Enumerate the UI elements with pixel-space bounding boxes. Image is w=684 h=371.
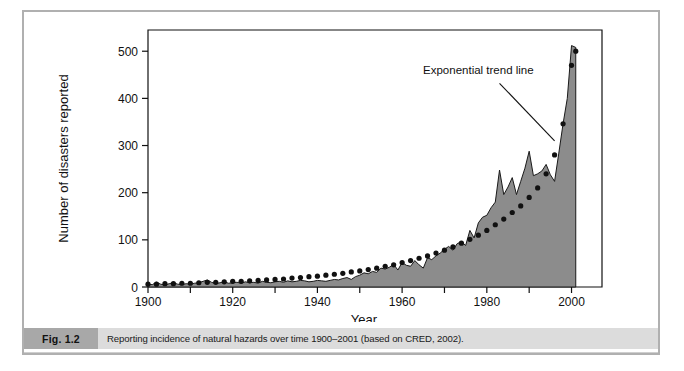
trend-dot	[400, 260, 405, 265]
trend-dot	[484, 228, 489, 233]
x-tick-label: 1960	[389, 295, 416, 309]
trend-dot	[256, 278, 261, 283]
trend-dot	[179, 281, 184, 286]
trend-dot	[239, 279, 244, 284]
x-axis-title: Year	[351, 312, 378, 322]
trend-dot	[196, 280, 201, 285]
trend-dot	[408, 258, 413, 263]
trend-dot	[518, 203, 523, 208]
trend-dot	[247, 278, 252, 283]
y-tick-label: 0	[131, 281, 138, 295]
trend-dot	[349, 269, 354, 274]
x-axis: 190019201940196019802000	[135, 287, 586, 309]
trend-dot	[154, 282, 159, 287]
figure-number-label: Fig. 1.2	[24, 328, 98, 349]
figure-page: 0100200300400500Number of disasters repo…	[0, 0, 684, 371]
annotation-leader-line	[500, 83, 555, 141]
trend-dot	[222, 279, 227, 284]
trend-dot	[289, 275, 294, 280]
trend-dot	[340, 271, 345, 276]
trend-dot	[205, 280, 210, 285]
trend-dot	[213, 280, 218, 285]
trend-dot	[145, 282, 150, 287]
trend-dot	[573, 49, 578, 54]
trend-dot	[459, 241, 464, 246]
x-tick-label: 1900	[135, 295, 162, 309]
trend-dot	[544, 171, 549, 176]
trend-dot	[315, 274, 320, 279]
trend-dot	[493, 222, 498, 227]
trend-dot	[374, 266, 379, 271]
trend-dot	[332, 272, 337, 277]
chart-annotation: Exponential trend line	[423, 64, 555, 141]
trend-dot	[171, 281, 176, 286]
trend-dot	[366, 267, 371, 272]
disasters-over-time-chart: 0100200300400500Number of disasters repo…	[24, 12, 658, 322]
trend-dot	[357, 268, 362, 273]
trend-dot	[467, 237, 472, 242]
area-series-disasters	[148, 46, 576, 287]
x-tick-label: 1980	[473, 295, 500, 309]
trend-dot	[230, 279, 235, 284]
figure-area: 0100200300400500Number of disasters repo…	[24, 12, 658, 322]
trend-dot	[527, 195, 532, 200]
caption-underline	[24, 352, 658, 353]
trend-dot	[383, 264, 388, 269]
trend-dot	[162, 281, 167, 286]
trend-dot	[391, 262, 396, 267]
trend-dot	[552, 152, 557, 157]
x-tick-label: 1940	[304, 295, 331, 309]
x-tick-label: 2000	[558, 295, 585, 309]
trend-dot	[425, 253, 430, 258]
y-axis: 0100200300400500	[118, 45, 148, 295]
trend-dot	[281, 276, 286, 281]
trend-dot	[188, 281, 193, 286]
annotation-label: Exponential trend line	[423, 64, 534, 76]
trend-dot	[306, 274, 311, 279]
figure-caption-bar: Fig. 1.2 Reporting incidence of natural …	[24, 328, 658, 349]
y-tick-label: 100	[118, 233, 138, 247]
trend-dot	[535, 185, 540, 190]
trend-dot	[442, 248, 447, 253]
trend-dot	[298, 275, 303, 280]
trend-dot	[560, 121, 565, 126]
y-tick-label: 400	[118, 92, 138, 106]
x-tick-label: 1920	[219, 295, 246, 309]
trend-dot	[264, 277, 269, 282]
trend-dot	[323, 273, 328, 278]
trend-dot	[450, 244, 455, 249]
y-tick-label: 200	[118, 186, 138, 200]
trend-dot	[501, 217, 506, 222]
y-tick-label: 300	[118, 139, 138, 153]
trend-dot	[510, 210, 515, 215]
trend-dot	[272, 277, 277, 282]
figure-caption-text: Reporting incidence of natural hazards o…	[98, 328, 658, 349]
trend-dot	[433, 250, 438, 255]
y-axis-title: Number of disasters reported	[56, 74, 71, 242]
trend-dot	[569, 63, 574, 68]
y-tick-label: 500	[118, 45, 138, 59]
trend-dot	[476, 233, 481, 238]
trend-dot	[416, 256, 421, 261]
